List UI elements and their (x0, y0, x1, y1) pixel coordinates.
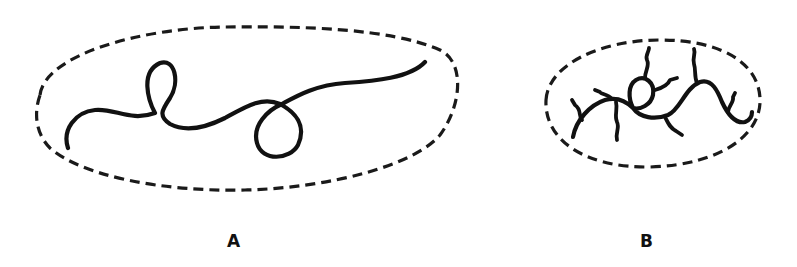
panel-b (546, 40, 760, 167)
branch (693, 49, 697, 83)
branch (595, 90, 612, 99)
branch (616, 102, 618, 140)
panel-label-a: A (227, 233, 240, 250)
linear-chain-a (67, 62, 425, 157)
branch (645, 48, 649, 78)
branch (572, 100, 582, 120)
branch (728, 93, 735, 112)
envelope-b-dashed-ellipse (546, 40, 760, 167)
branch (665, 117, 682, 135)
panel-a (37, 27, 458, 190)
polymer-chain-diagram (0, 0, 797, 267)
panel-label-b: B (640, 233, 653, 250)
branch (655, 78, 677, 90)
